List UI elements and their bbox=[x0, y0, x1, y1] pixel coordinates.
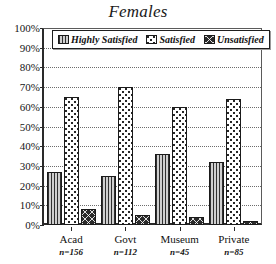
y-axis-tick-label: 20% bbox=[2, 180, 40, 192]
x-axis-sample-size-label: n=45 bbox=[153, 247, 207, 258]
x-axis-sample-size-label: n=156 bbox=[44, 247, 98, 258]
x-axis-sample-size-label: n=112 bbox=[98, 247, 152, 258]
x-axis-sample-size-label: n=85 bbox=[207, 247, 261, 258]
x-axis-tick-mark bbox=[125, 227, 126, 231]
y-axis-tick-label: 100% bbox=[2, 22, 40, 34]
chart-legend: Highly SatisfiedSatisfiedUnsatisfied bbox=[52, 30, 270, 49]
legend-item-unsatisfied[interactable]: Unsatisfied bbox=[204, 35, 264, 45]
x-axis-category-label: Museum bbox=[153, 234, 207, 246]
x-axis-tick-mark bbox=[180, 227, 181, 231]
x-axis-group-acad: Acadn=156 bbox=[44, 227, 98, 263]
x-axis-category-label: Private bbox=[207, 234, 261, 246]
bar-acad-highly-satisfied bbox=[47, 172, 62, 225]
bar-private-satisfied bbox=[226, 99, 241, 225]
legend-label: Highly Satisfied bbox=[71, 35, 137, 45]
y-axis: 100%90%80%70%60%50%40%30%20%10%0% bbox=[0, 28, 40, 225]
y-axis-tick-label: 10% bbox=[2, 199, 40, 211]
chart-title: Females bbox=[0, 2, 276, 22]
bar-museum-unsatisfied bbox=[189, 217, 204, 225]
y-axis-tick-label: 90% bbox=[2, 42, 40, 54]
y-axis-tick-mark bbox=[40, 225, 44, 226]
x-axis-category-label: Acad bbox=[44, 234, 98, 246]
bar-group-private bbox=[207, 28, 261, 225]
bar-govt-satisfied bbox=[118, 87, 133, 225]
legend-label: Satisfied bbox=[159, 35, 195, 45]
legend-item-satisfied[interactable]: Satisfied bbox=[146, 35, 195, 45]
bar-private-highly-satisfied bbox=[209, 162, 224, 225]
cross-hatch-swatch bbox=[204, 35, 215, 44]
x-axis-category-label: Govt bbox=[98, 234, 152, 246]
dots-swatch bbox=[146, 35, 157, 44]
bar-govt-unsatisfied bbox=[135, 215, 150, 225]
bar-museum-satisfied bbox=[172, 107, 187, 225]
bar-acad-satisfied bbox=[64, 97, 79, 225]
y-axis-tick-label: 30% bbox=[2, 160, 40, 172]
bar-acad-unsatisfied bbox=[81, 209, 96, 225]
bar-govt-highly-satisfied bbox=[101, 176, 116, 225]
x-axis-tick-mark bbox=[71, 227, 72, 231]
legend-item-highly-satisfied[interactable]: Highly Satisfied bbox=[58, 35, 137, 45]
bar-private-unsatisfied bbox=[243, 221, 258, 225]
x-axis-group-museum: Museumn=45 bbox=[153, 227, 207, 263]
vertical-lines-swatch bbox=[58, 35, 69, 44]
x-axis-tick-mark bbox=[234, 227, 235, 231]
bar-group-acad bbox=[44, 28, 98, 225]
y-axis-tick-label: 60% bbox=[2, 101, 40, 113]
y-axis-tick-label: 0% bbox=[2, 219, 40, 231]
bar-museum-highly-satisfied bbox=[155, 154, 170, 225]
bar-group-govt bbox=[98, 28, 152, 225]
legend-label: Unsatisfied bbox=[217, 35, 264, 45]
y-axis-tick-label: 50% bbox=[2, 121, 40, 133]
y-axis-tick-label: 80% bbox=[2, 61, 40, 73]
x-axis-group-govt: Govtn=112 bbox=[98, 227, 152, 263]
chart-figure: Females 100%90%80%70%60%50%40%30%20%10%0… bbox=[0, 0, 276, 264]
y-axis-tick-label: 70% bbox=[2, 81, 40, 93]
y-axis-tick-label: 40% bbox=[2, 140, 40, 152]
bar-group-museum bbox=[153, 28, 207, 225]
bar-groups bbox=[44, 28, 261, 225]
x-axis-group-private: Privaten=85 bbox=[207, 227, 261, 263]
x-axis: Acadn=156Govtn=112Museumn=45Privaten=85 bbox=[44, 227, 261, 263]
